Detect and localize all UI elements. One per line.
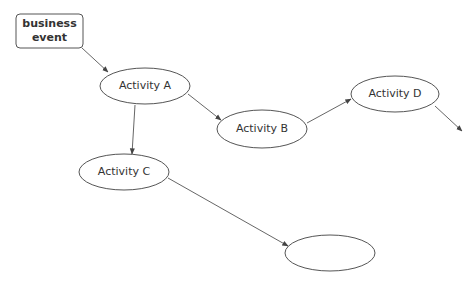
- empty-activity-label: [285, 235, 375, 271]
- activity-a-label: Activity A: [100, 68, 190, 104]
- edge-d-to-next: [435, 106, 462, 131]
- edge-a-to-c: [132, 105, 135, 154]
- activity-d-label: Activity D: [351, 76, 439, 112]
- edge-c-to-empty: [168, 178, 288, 246]
- edge-b-to-d: [307, 99, 351, 123]
- business-event-line1: business: [22, 17, 76, 31]
- business-event-line2: event: [32, 31, 67, 45]
- business-event-label: business event: [16, 14, 83, 48]
- activity-c-label: Activity C: [79, 154, 169, 190]
- activity-b-label: Activity B: [217, 110, 307, 148]
- process-diagram: business event Activity A Activity B Act…: [0, 0, 471, 283]
